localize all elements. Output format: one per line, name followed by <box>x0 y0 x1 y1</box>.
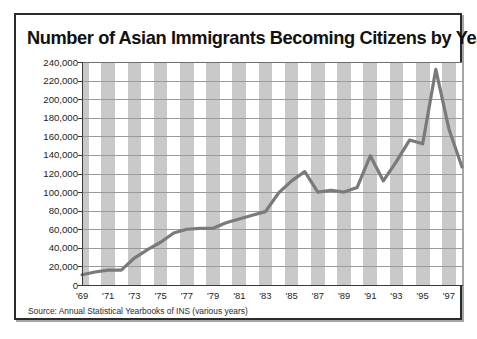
y-tick-label: 20,000 <box>18 262 78 271</box>
x-tick-label: '77 <box>181 290 193 301</box>
y-axis-line <box>82 62 83 286</box>
y-tick-label: 80,000 <box>18 206 78 215</box>
y-tick-label: 180,000 <box>18 113 78 122</box>
x-tick-label: '87 <box>312 290 324 301</box>
chart-figure: Number of Asian Immigrants Becoming Citi… <box>14 13 462 320</box>
y-tick-label: 240,000 <box>18 58 78 67</box>
y-tick-label: 40,000 <box>18 243 78 252</box>
plot-wrapper: 020,00040,00060,00080,000100,000120,0001… <box>16 15 460 318</box>
x-tick-label: '73 <box>128 290 140 301</box>
y-tick-label: 140,000 <box>18 150 78 159</box>
x-tick-label: '79 <box>207 290 219 301</box>
y-tick-label: 160,000 <box>18 132 78 141</box>
y-tick-label: 100,000 <box>18 188 78 197</box>
x-axis-labels: '69'71'73'75'77'79'81'83'85'87'89'91'93'… <box>82 290 463 304</box>
x-tick-label: '89 <box>338 290 350 301</box>
source-note: Source: Annual Statistical Yearbooks of … <box>28 306 248 316</box>
y-tick-label: 220,000 <box>18 76 78 85</box>
x-tick-label: '81 <box>233 290 245 301</box>
y-axis-labels: 020,00040,00060,00080,000100,000120,0001… <box>16 15 78 322</box>
x-tick-label: '71 <box>102 290 114 301</box>
x-tick-label: '97 <box>443 290 455 301</box>
y-tick-label: 200,000 <box>18 95 78 104</box>
x-tick-label: '75 <box>155 290 167 301</box>
line-series-svg <box>82 62 462 285</box>
x-axis-line <box>82 285 463 286</box>
x-tick-label: '83 <box>259 290 271 301</box>
x-tick-label: '91 <box>364 290 376 301</box>
plot-area <box>82 62 462 285</box>
y-tick-label: 0 <box>18 281 78 290</box>
x-tick-label: '95 <box>417 290 429 301</box>
data-line <box>82 69 462 274</box>
y-tick-label: 60,000 <box>18 225 78 234</box>
y-tick-label: 120,000 <box>18 169 78 178</box>
x-tick-label: '93 <box>390 290 402 301</box>
x-tick-label: '85 <box>286 290 298 301</box>
x-tick-label: '69 <box>76 290 88 301</box>
